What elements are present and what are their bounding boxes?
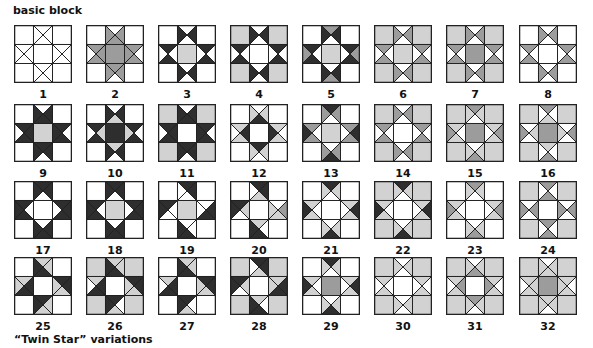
title-basic-block: basic block	[13, 4, 82, 17]
quilt-block-pattern-icon	[519, 25, 577, 83]
quilt-block-21	[302, 181, 360, 239]
block-number-label: 12	[230, 167, 288, 180]
quilt-block-pattern-icon	[14, 181, 72, 239]
quilt-block-15	[446, 104, 504, 162]
block-number-label: 3	[158, 88, 216, 101]
block-number-label: 11	[158, 167, 216, 180]
quilt-block-pattern-icon	[158, 181, 216, 239]
quilt-block-pattern-icon	[86, 104, 144, 162]
quilt-block-1	[14, 25, 72, 83]
quilt-block-pattern-icon	[302, 25, 360, 83]
block-number-label: 24	[519, 244, 577, 257]
quilt-block-25	[14, 257, 72, 315]
quilt-block-pattern-icon	[86, 181, 144, 239]
quilt-block-14	[374, 104, 432, 162]
block-number-label: 20	[230, 244, 288, 257]
quilt-block-29	[302, 257, 360, 315]
block-number-label: 16	[519, 167, 577, 180]
quilt-block-31	[446, 257, 504, 315]
quilt-block-pattern-icon	[446, 25, 504, 83]
quilt-block-pattern-icon	[230, 181, 288, 239]
block-number-label: 28	[230, 320, 288, 333]
quilt-block-pattern-icon	[86, 257, 144, 315]
quilt-block-pattern-icon	[446, 104, 504, 162]
quilt-block-32	[519, 257, 577, 315]
block-number-label: 18	[86, 244, 144, 257]
quilt-block-pattern-icon	[374, 104, 432, 162]
quilt-block-pattern-icon	[86, 25, 144, 83]
block-number-label: 22	[374, 244, 432, 257]
block-number-label: 19	[158, 244, 216, 257]
quilt-block-pattern-icon	[446, 181, 504, 239]
quilt-block-pattern-icon	[158, 104, 216, 162]
quilt-block-pattern-icon	[302, 104, 360, 162]
quilt-block-pattern-icon	[230, 25, 288, 83]
quilt-block-26	[86, 257, 144, 315]
quilt-block-3	[158, 25, 216, 83]
block-number-label: 23	[446, 244, 504, 257]
quilt-block-pattern-icon	[519, 181, 577, 239]
block-number-label: 21	[302, 244, 360, 257]
block-number-label: 14	[374, 167, 432, 180]
quilt-block-2	[86, 25, 144, 83]
quilt-block-pattern-icon	[230, 257, 288, 315]
quilt-block-28	[230, 257, 288, 315]
quilt-block-12	[230, 104, 288, 162]
block-number-label: 32	[519, 320, 577, 333]
block-number-label: 7	[446, 88, 504, 101]
block-number-label: 26	[86, 320, 144, 333]
block-number-label: 1	[14, 88, 72, 101]
block-number-label: 10	[86, 167, 144, 180]
quilt-block-pattern-icon	[374, 25, 432, 83]
quilt-block-10	[86, 104, 144, 162]
title-twin-star-variations: “Twin Star” variations	[14, 333, 153, 346]
block-number-label: 25	[14, 320, 72, 333]
block-number-label: 27	[158, 320, 216, 333]
quilt-block-pattern-icon	[14, 104, 72, 162]
quilt-block-18	[86, 181, 144, 239]
quilt-block-16	[519, 104, 577, 162]
quilt-block-8	[519, 25, 577, 83]
quilt-block-pattern-icon	[519, 257, 577, 315]
quilt-block-pattern-icon	[158, 257, 216, 315]
quilt-block-23	[446, 181, 504, 239]
block-number-label: 31	[446, 320, 504, 333]
quilt-block-6	[374, 25, 432, 83]
quilt-block-27	[158, 257, 216, 315]
block-number-label: 6	[374, 88, 432, 101]
quilt-block-pattern-icon	[302, 181, 360, 239]
quilt-block-20	[230, 181, 288, 239]
quilt-block-pattern-icon	[14, 257, 72, 315]
block-number-label: 30	[374, 320, 432, 333]
block-number-label: 13	[302, 167, 360, 180]
quilt-block-24	[519, 181, 577, 239]
block-number-label: 9	[14, 167, 72, 180]
quilt-block-11	[158, 104, 216, 162]
block-number-label: 17	[14, 244, 72, 257]
block-number-label: 4	[230, 88, 288, 101]
quilt-block-30	[374, 257, 432, 315]
quilt-block-pattern-icon	[446, 257, 504, 315]
quilt-block-17	[14, 181, 72, 239]
block-number-label: 15	[446, 167, 504, 180]
quilt-block-pattern-icon	[14, 25, 72, 83]
quilt-block-7	[446, 25, 504, 83]
quilt-block-22	[374, 181, 432, 239]
quilt-block-9	[14, 104, 72, 162]
quilt-block-pattern-icon	[230, 104, 288, 162]
block-number-label: 5	[302, 88, 360, 101]
quilt-block-pattern-icon	[374, 181, 432, 239]
block-number-label: 29	[302, 320, 360, 333]
quilt-block-5	[302, 25, 360, 83]
quilt-block-pattern-icon	[158, 25, 216, 83]
quilt-block-4	[230, 25, 288, 83]
block-number-label: 8	[519, 88, 577, 101]
quilt-block-pattern-icon	[519, 104, 577, 162]
block-number-label: 2	[86, 88, 144, 101]
quilt-block-13	[302, 104, 360, 162]
quilt-block-19	[158, 181, 216, 239]
quilt-block-pattern-icon	[302, 257, 360, 315]
quilt-block-pattern-icon	[374, 257, 432, 315]
